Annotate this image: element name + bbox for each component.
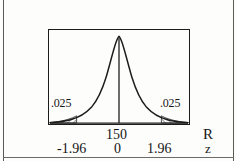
z-axis-tick-zero: 0: [114, 140, 121, 157]
page-border-bottom: [3, 157, 234, 158]
plot-frame: [48, 29, 190, 125]
left-tail-area-label: .025: [51, 97, 71, 109]
z-axis-labels: -1.96 0 1.96 z: [0, 140, 237, 157]
z-axis-name: z: [205, 140, 211, 157]
z-axis-tick-positive: 1.96: [147, 140, 172, 157]
z-axis-tick-negative: -1.96: [57, 140, 86, 157]
right-tail-area-label: .025: [160, 97, 180, 109]
figure-canvas: .025 .025 150 R -1.96 0 1.96 z: [0, 0, 237, 161]
